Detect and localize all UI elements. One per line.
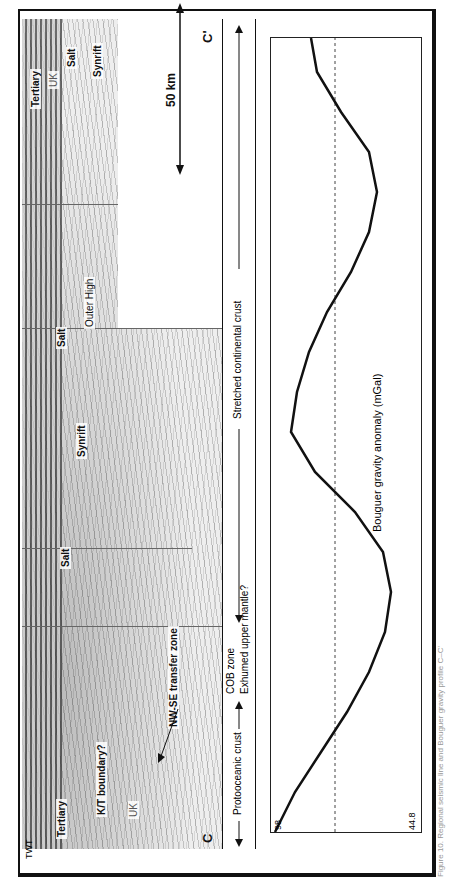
figure-caption: Figure 10. Regional seismic line and Bou… <box>436 646 445 877</box>
rotated-figure: TWT Tertiary K/T boundary? UK NW-SE tran… <box>0 0 449 889</box>
gravity-max-label: 98 <box>273 820 283 830</box>
gravity-min-label: 44.8 <box>407 812 417 830</box>
zone-exhumed-mantle: Exhumed upper mantle? <box>239 585 250 694</box>
zone-stretched-crust: Stretched continental crust <box>232 301 243 419</box>
crust-zones-bar: Protooceanic crust COB zone Exhumed uppe… <box>222 19 256 849</box>
scale-bar-label: 50 km <box>164 71 178 109</box>
gravity-profile-chart: Bouguer gravity anomaly (mGal) 98 44.8 <box>270 37 422 833</box>
zone-cob: COB zone <box>225 648 236 694</box>
zone-protooceanic: Protooceanic crust <box>232 732 243 815</box>
gravity-title: Bouguer gravity anomaly (mGal) <box>371 374 383 532</box>
